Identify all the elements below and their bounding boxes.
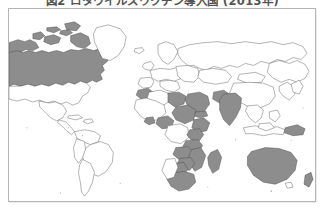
region-eastern-europe[interactable]: [176, 65, 200, 82]
island-victoria[interactable]: [44, 35, 61, 45]
country-yemen[interactable]: [194, 111, 208, 118]
region-central-america[interactable]: [58, 120, 75, 135]
country-india[interactable]: [220, 93, 242, 126]
region-italy-balkans[interactable]: [160, 80, 180, 92]
island-ellesmere[interactable]: [65, 22, 81, 31]
island-tasmania[interactable]: [285, 182, 293, 188]
island-devon[interactable]: [60, 30, 73, 36]
region-scandinavia[interactable]: [158, 42, 178, 65]
country-canada[interactable]: [9, 49, 109, 87]
country-mexico[interactable]: [39, 101, 67, 121]
region-uk-ireland[interactable]: [142, 61, 154, 70]
country-sudan[interactable]: [172, 105, 196, 124]
island-cuba[interactable]: [68, 115, 83, 120]
map-speck: [291, 140, 292, 141]
map-viewport[interactable]: [9, 9, 315, 201]
country-philippines[interactable]: [269, 110, 280, 122]
map-noise-dot: [26, 127, 28, 129]
region-central-africa[interactable]: [165, 124, 189, 144]
figure-caption-strip: 図2 ロタウイルスワクチン導入国 (2013年): [0, 0, 325, 7]
island-hispaniola[interactable]: [84, 119, 94, 124]
country-new-zealand[interactable]: [304, 172, 313, 187]
country-libya[interactable]: [168, 92, 186, 107]
map-speck: [60, 193, 61, 194]
country-australia[interactable]: [247, 148, 297, 185]
country-iceland[interactable]: [134, 48, 144, 54]
world-map[interactable]: [9, 9, 315, 201]
map-noise-dot: [302, 107, 303, 108]
map-noise-dot: [119, 182, 121, 184]
country-kazakhstan[interactable]: [198, 68, 232, 84]
map-speck: [82, 135, 83, 136]
region-indochina[interactable]: [245, 105, 263, 123]
map-noise-dot: [157, 48, 158, 49]
country-mongolia[interactable]: [238, 72, 266, 83]
country-papua-new-guinea[interactable]: [284, 125, 305, 136]
figure-caption: 図2 ロタウイルスワクチン導入国 (2013年): [46, 0, 279, 7]
country-ghana[interactable]: [144, 117, 155, 125]
map-speck: [271, 191, 272, 192]
country-japan[interactable]: [291, 80, 303, 94]
region-iberia[interactable]: [138, 77, 154, 88]
island-baffin[interactable]: [71, 33, 91, 49]
island-melville[interactable]: [47, 27, 61, 33]
island-banks[interactable]: [33, 32, 45, 40]
map-speck: [235, 139, 236, 140]
country-madagascar[interactable]: [208, 150, 222, 174]
map-noise-dot: [207, 186, 208, 187]
figure-frame: [8, 8, 316, 202]
map-speck: [68, 127, 69, 128]
region-siberia-east[interactable]: [267, 60, 309, 82]
